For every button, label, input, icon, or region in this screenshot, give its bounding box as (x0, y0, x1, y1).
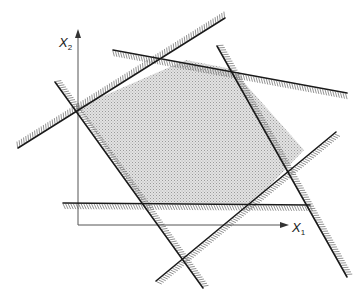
x1-arrow-icon (280, 222, 289, 228)
x2-arrow-icon (75, 29, 81, 38)
x1-axis-label: X1 (291, 220, 306, 237)
x2-axis-label: X2 (58, 35, 73, 52)
feasible-region-diagram: X1 X2 (0, 0, 363, 298)
feasible-region (78, 60, 304, 204)
